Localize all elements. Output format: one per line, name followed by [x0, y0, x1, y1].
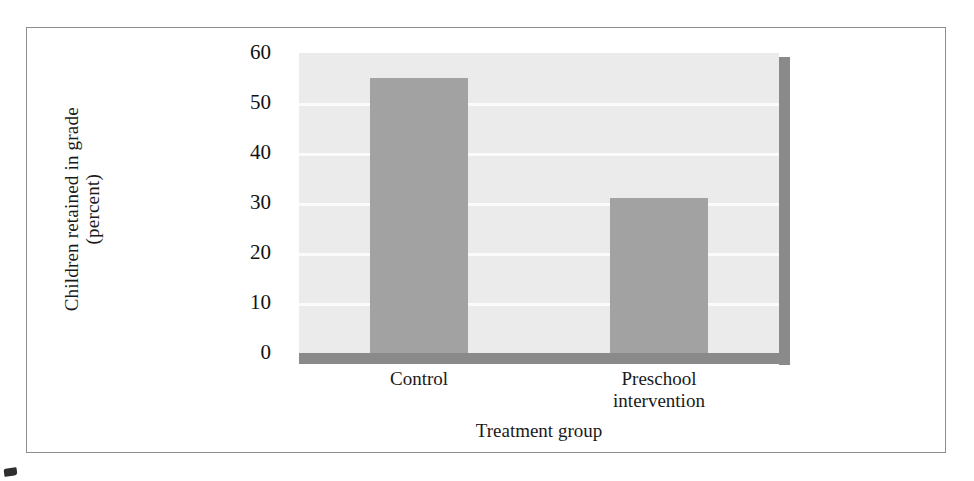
y-axis-title: Children retained in grade (percent): [61, 59, 104, 359]
x-axis-title: Treatment group: [299, 420, 779, 442]
scan-artifact-speck: [4, 467, 18, 477]
y-tick-label-50: 50: [223, 90, 271, 115]
y-axis-tick-labels: 60 50 40 30 20 10 0: [223, 28, 271, 454]
plot-area: [299, 53, 779, 353]
y-tick-label-30: 30: [223, 190, 271, 215]
y-tick-label-10: 10: [223, 290, 271, 315]
plot-right-wall: [779, 57, 790, 365]
bar-chart: Children retained in grade (percent) 60 …: [27, 28, 947, 454]
y-tick-label-20: 20: [223, 240, 271, 265]
bar-control: [370, 78, 468, 353]
plot-baseline-floor: [299, 353, 790, 364]
x-category-label-preschool-intervention: Preschool intervention: [613, 368, 705, 413]
x-category-label-control: Control: [390, 368, 448, 390]
y-tick-label-60: 60: [223, 40, 271, 65]
bar-preschool-intervention: [610, 198, 708, 353]
y-tick-label-40: 40: [223, 140, 271, 165]
y-tick-label-0: 0: [223, 340, 271, 365]
figure-frame: Children retained in grade (percent) 60 …: [26, 27, 946, 453]
